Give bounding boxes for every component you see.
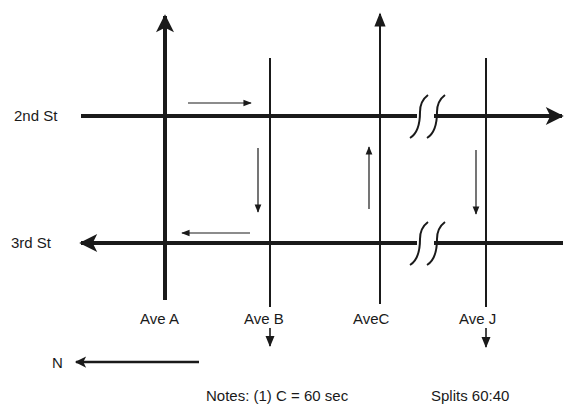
north-label: N [52,355,63,370]
avenue-label-ave-a: Ave A [140,311,179,326]
notes-splits: Splits 60:40 [431,388,509,403]
street-label-3rd-st: 3rd St [11,235,51,250]
notes-cycle-length: Notes: (1) C = 60 sec [206,388,348,403]
avenue-label-ave-j: Ave J [459,311,496,326]
avenue-label-ave-c: AveC [353,311,389,326]
street-label-2nd-st: 2nd St [14,108,57,123]
avenue-label-ave-b: Ave B [244,311,284,326]
